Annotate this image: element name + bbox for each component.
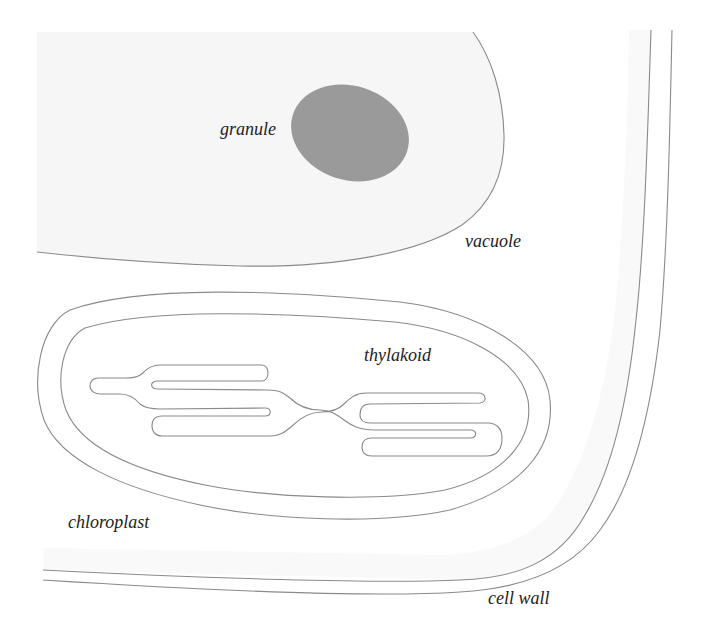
plant-cell-diagram: granule vacuole thylakoid chloroplast ce… [0,0,704,632]
chloroplast-inner-membrane [61,314,529,497]
chloroplast-outer-membrane [38,292,551,519]
vacuole-label: vacuole [465,231,521,251]
thylakoid-label: thylakoid [364,345,432,365]
chloroplast-label: chloroplast [68,512,150,532]
vacuole [37,32,504,266]
cell-wall-label: cell wall [488,588,550,608]
thylakoid [90,365,502,456]
thylakoid-membrane [90,365,502,456]
chloroplast [38,292,551,519]
vacuole-body [37,32,504,266]
granule-label: granule [220,119,276,139]
